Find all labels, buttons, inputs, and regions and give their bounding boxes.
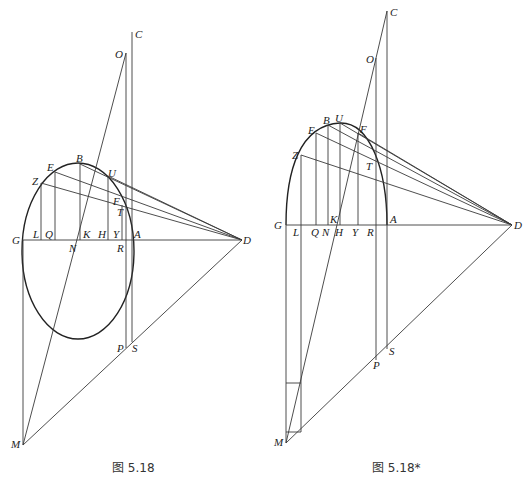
label-Z: Z [32, 175, 39, 187]
line-FD [358, 133, 512, 225]
label-A: A [133, 228, 141, 240]
label-E: E [307, 124, 315, 136]
label-B: B [323, 114, 330, 126]
label-H: H [97, 228, 107, 240]
label-E: E [46, 161, 54, 173]
label-N: N [321, 226, 330, 238]
label-T: T [117, 206, 124, 218]
label-A: A [389, 213, 397, 225]
label-N: N [68, 242, 77, 254]
label-L: L [292, 226, 299, 238]
label-Y: Y [352, 226, 360, 238]
label-M: M [273, 436, 284, 448]
label-F: F [359, 123, 367, 135]
line-MD [286, 225, 512, 443]
figure-caption: 图 5.18* [372, 461, 421, 475]
label-R: R [366, 226, 374, 238]
label-S: S [132, 342, 138, 354]
label-H: H [334, 226, 344, 238]
label-D: D [513, 219, 522, 231]
label-R: R [116, 242, 124, 254]
label-T: T [366, 160, 373, 172]
label-M: M [10, 438, 21, 450]
label-U: U [108, 167, 117, 179]
label-K: K [82, 228, 91, 240]
label-Y: Y [113, 228, 121, 240]
figure-caption: 图 5.18 [112, 461, 155, 475]
label-P: P [116, 342, 124, 354]
label-D: D [242, 234, 251, 246]
label-L: L [32, 228, 39, 240]
label-C: C [135, 28, 143, 40]
label-G: G [274, 219, 282, 231]
label-G: G [12, 234, 20, 246]
label-P: P [372, 359, 380, 371]
label-Q: Q [45, 228, 53, 240]
label-K: K [329, 213, 338, 225]
label-Q: Q [311, 226, 319, 238]
figure-5-18-star: C O B U E F Z T G L Q N K H Y R A D S P … [273, 6, 522, 475]
label-Z: Z [292, 149, 299, 161]
label-S: S [389, 345, 395, 357]
label-O: O [366, 53, 374, 65]
label-O: O [115, 48, 123, 60]
line-BD [328, 125, 512, 225]
figure-5-18: C O B E U Z F T G L Q K H Y A N R D P S … [10, 28, 251, 475]
line-ED [316, 133, 512, 225]
geometry-figures: C O B E U Z F T G L Q K H Y A N R D P S … [0, 0, 530, 481]
label-U: U [335, 112, 344, 124]
label-B: B [76, 152, 83, 164]
label-C: C [390, 6, 398, 18]
